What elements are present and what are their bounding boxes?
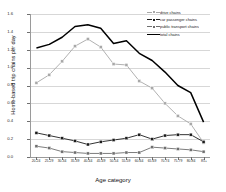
legend-swatch-icon	[147, 16, 160, 23]
data-point-marker	[48, 134, 51, 137]
data-point-marker	[74, 139, 77, 142]
data-point-marker	[164, 134, 167, 137]
data-point-marker	[112, 63, 115, 66]
data-point-marker	[176, 114, 179, 117]
legend-swatch-icon	[147, 23, 160, 30]
data-point-marker	[189, 148, 192, 151]
legend-item[interactable]: total chains	[147, 31, 219, 38]
data-point-marker	[189, 122, 192, 125]
data-point-marker	[125, 137, 128, 140]
legend-label: car passenger chains	[160, 17, 197, 22]
data-point-marker	[61, 60, 64, 63]
data-point-marker	[125, 63, 128, 66]
data-point-marker	[138, 151, 141, 154]
data-point-marker	[48, 73, 51, 76]
x-axis-title: Age category	[0, 177, 226, 184]
data-point-marker	[35, 145, 38, 148]
data-point-marker	[86, 143, 89, 146]
legend-label: public transport chains	[160, 24, 199, 29]
series-line	[36, 25, 203, 122]
data-point-marker	[138, 133, 141, 136]
data-point-marker	[112, 152, 115, 155]
data-point-marker	[125, 151, 128, 154]
data-point-marker	[86, 152, 89, 155]
chart-legend: drive chainscar passenger chainspublic t…	[147, 9, 219, 38]
data-point-marker	[61, 137, 64, 140]
data-point-marker	[151, 146, 154, 149]
data-point-marker	[164, 102, 167, 105]
data-point-marker	[164, 147, 167, 150]
data-point-marker	[61, 150, 64, 153]
data-point-marker	[35, 131, 38, 134]
data-point-marker	[112, 139, 115, 142]
legend-label: drive chains	[160, 10, 181, 15]
data-point-marker	[99, 140, 102, 143]
legend-swatch-icon	[147, 9, 160, 16]
data-point-marker	[99, 46, 102, 49]
chart-container: 0.00.20.40.60.81.01.21.41.6 20-2425-2930…	[0, 0, 226, 192]
data-point-marker	[35, 81, 38, 84]
data-point-marker	[99, 152, 102, 155]
data-point-marker	[176, 133, 179, 136]
data-point-marker	[86, 38, 89, 41]
data-point-marker	[176, 147, 179, 150]
series-line	[36, 39, 203, 143]
legend-label: total chains	[160, 32, 180, 37]
legend-item[interactable]: drive chains	[147, 9, 219, 16]
data-point-marker	[138, 80, 141, 83]
legend-item[interactable]: car passenger chains	[147, 16, 219, 23]
data-point-marker	[202, 150, 205, 153]
data-point-marker	[74, 45, 77, 48]
legend-item[interactable]: public transport chains	[147, 23, 219, 30]
data-point-marker	[202, 140, 205, 143]
legend-swatch-icon	[147, 31, 160, 38]
data-point-marker	[151, 138, 154, 141]
data-point-marker	[48, 147, 51, 150]
y-axis-title: Home-based trip chains per day	[10, 0, 16, 150]
data-point-marker	[189, 133, 192, 136]
data-point-marker	[74, 151, 77, 154]
data-point-marker	[151, 87, 154, 90]
